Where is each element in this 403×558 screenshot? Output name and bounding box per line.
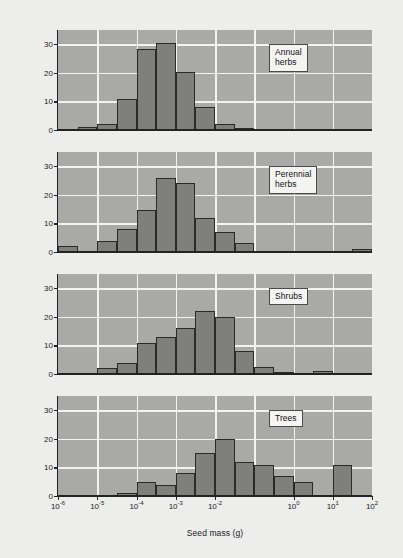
gridline-vertical [333,30,335,130]
panel-label-box: Perennial herbs [269,166,317,194]
gridline-vertical [97,396,99,496]
gridline-vertical [254,274,256,374]
bar [137,482,157,496]
y-axis-tick [54,467,58,468]
gridline-vertical [333,274,335,374]
y-axis-tick [54,374,58,375]
x-axis-title: Seed mass (g) [58,528,372,538]
x-axis-tick-label: 10-2 [208,502,222,511]
x-axis-tick [294,496,295,500]
bar [294,482,314,496]
x-axis-tick [333,496,334,500]
y-axis-tick-label: 0 [49,492,53,501]
bar [195,218,215,252]
bar [176,328,196,374]
y-axis-tick [54,195,58,196]
panel-label-box: Shrubs [269,288,308,305]
y-axis-tick [54,288,58,289]
x-axis-tick-label: 10-5 [90,502,104,511]
bar [176,473,196,496]
y-axis-tick [54,410,58,411]
gridline-vertical [97,274,99,374]
bar [137,210,157,252]
bar [195,107,215,130]
gridline-vertical [254,30,256,130]
y-axis-tick-label: 30 [44,406,53,415]
y-axis-tick-label: 20 [44,434,53,443]
y-axis-tick-label: 20 [44,312,53,321]
x-axis-tick-label: 100 [287,502,299,511]
bar [274,476,294,496]
bar [215,439,235,496]
y-axis-tick-label: 0 [49,248,53,257]
y-axis-tick [54,130,58,131]
y-axis-tick [54,44,58,45]
y-axis-tick-label: 10 [44,463,53,472]
y-axis-tick-label: 0 [49,370,53,379]
y-axis-tick [54,101,58,102]
bar [156,485,176,496]
y-axis-tick [54,73,58,74]
panel-label-box: Annual herbs [269,44,308,72]
y-axis-tick-label: 20 [44,68,53,77]
bar [235,351,255,374]
bar [215,317,235,374]
bar [156,43,176,130]
bar [215,232,235,252]
y-axis-tick [54,345,58,346]
x-axis-line [58,129,372,130]
y-axis-tick [54,166,58,167]
x-axis-line [58,251,372,252]
panel-label-box: Trees [269,410,303,427]
bar [176,72,196,130]
y-axis-tick [54,317,58,318]
bar [333,465,353,496]
gridline-vertical [333,152,335,252]
bar [117,363,137,374]
bar [117,99,137,130]
y-axis-tick [54,252,58,253]
y-axis-tick-label: 30 [44,40,53,49]
bar [117,229,137,252]
bar [195,311,215,374]
y-axis-tick-label: 30 [44,162,53,171]
gridline-vertical [97,30,99,130]
x-axis-tick-label: 10-3 [169,502,183,511]
bar [137,49,157,130]
y-axis-tick-label: 10 [44,341,53,350]
x-axis-tick-label: 10-4 [129,502,143,511]
x-axis-line [58,373,372,374]
y-axis-tick [54,223,58,224]
y-axis-tick [54,439,58,440]
seed-mass-distribution-figure: Species (%) Seed mass (g) 0102030Annual … [0,0,403,558]
bar [137,343,157,374]
bar [235,462,255,496]
x-axis-tick [372,496,373,500]
gridline-vertical [97,152,99,252]
y-axis-tick-label: 20 [44,190,53,199]
bar [97,241,117,252]
bar [176,183,196,252]
panel-trees: 010203010-610-510-410-310-2100101102Tree… [58,396,372,496]
y-axis-tick-label: 10 [44,97,53,106]
x-axis-tick-label: 102 [366,502,378,511]
plot-area [58,30,372,130]
bar [156,337,176,374]
gridline-vertical [215,30,217,130]
x-axis-tick-label: 101 [327,502,339,511]
y-axis-tick-label: 0 [49,126,53,135]
x-axis-tick-label: 10-6 [51,502,65,511]
bar [254,465,274,496]
bar [156,178,176,252]
panel-perennial-herbs: 0102030Perennial herbs [58,152,372,252]
panel-shrubs: 0102030Shrubs [58,274,372,374]
gridline-vertical [254,152,256,252]
bar [195,453,215,496]
panel-annual-herbs: 0102030Annual herbs [58,30,372,130]
y-axis-tick-label: 10 [44,219,53,228]
y-axis-tick-label: 30 [44,284,53,293]
